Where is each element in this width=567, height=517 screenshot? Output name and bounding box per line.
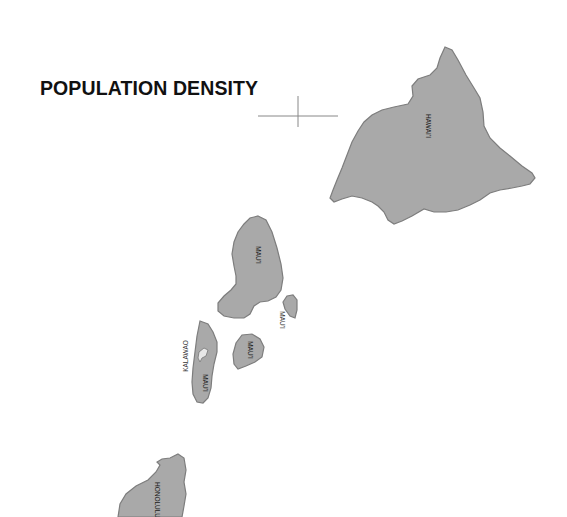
crosshair-icon [258, 96, 338, 127]
region-label-hawaii: HAWAI'I [425, 114, 432, 138]
region-maui-molokai[interactable]: MAU'I [192, 321, 217, 403]
region-label-maui-main: MAU'I [255, 246, 262, 264]
region-label-maui-islet: MAU'I [279, 311, 286, 329]
region-hawaii[interactable]: HAWAI'I [330, 47, 535, 224]
map-canvas: HAWAI'I MAU'I MAU'I MAU'I MAU'I KALAWAO … [0, 0, 567, 517]
region-maui-main[interactable]: MAU'I [218, 216, 283, 318]
region-label-honolulu: HONOLULU [154, 482, 161, 517]
region-label-maui-lanai: MAU'I [247, 341, 254, 359]
region-honolulu[interactable]: HONOLULU [118, 454, 186, 517]
region-label-kalawao: KALAWAO [182, 340, 189, 372]
region-label-maui-molokai: MAU'I [202, 374, 209, 392]
region-maui-islet[interactable]: MAU'I [279, 295, 297, 329]
region-maui-lanai[interactable]: MAU'I [233, 334, 264, 369]
